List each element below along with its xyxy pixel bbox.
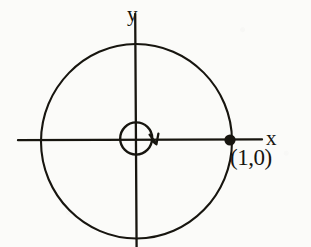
y-axis-label: y	[127, 4, 138, 25]
unit-circle-figure: y x (1,0)	[0, 0, 311, 247]
figure-canvas	[0, 0, 311, 247]
point-coordinate-label: (1,0)	[230, 146, 272, 169]
point-one-zero-marker	[224, 134, 235, 145]
y-axis-line	[135, 14, 136, 247]
origin-rotation-loop-path	[120, 122, 155, 154]
